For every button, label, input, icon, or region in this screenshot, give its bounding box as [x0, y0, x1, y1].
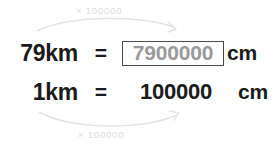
answer-input-box[interactable]: 7900000 [122, 41, 224, 66]
reference-value: 100000 [128, 79, 224, 105]
equals-sign-primary: = [86, 41, 116, 65]
multiply-arrow-top [37, 18, 174, 31]
multiply-arrow-top-head [168, 22, 176, 32]
unit-label-primary: cm [227, 41, 257, 65]
answer-input-value: 7900000 [133, 41, 213, 65]
multiply-arrow-bottom-label: × 100000 [78, 129, 124, 140]
equation-left-term-reference: 1km [0, 79, 78, 106]
equation-row-reference: 1km = 100000 cm [0, 75, 273, 109]
unit-label-reference: cm [238, 80, 268, 104]
conversion-diagram: × 100000 × 100000 79km = 7900000 cm 1km … [0, 0, 273, 151]
multiply-arrow-bottom-head [170, 111, 179, 120]
equation-left-term-primary: 79km [0, 40, 78, 67]
equation-row-primary: 79km = 7900000 cm [0, 36, 273, 70]
multiply-arrow-top-label: × 100000 [76, 5, 122, 16]
equals-sign-reference: = [86, 80, 116, 104]
multiply-arrow-bottom [39, 112, 177, 126]
